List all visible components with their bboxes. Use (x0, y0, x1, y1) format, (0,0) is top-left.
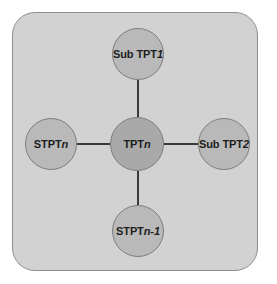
edge-center-to-right (163, 143, 199, 145)
diagram-panel: Sub TPT1 STPTn TPTn Sub TPT2 STPTn-1 (12, 12, 258, 271)
node-tpt-n-label: TPTn (123, 139, 150, 150)
node-stpt-n[interactable]: STPTn (25, 118, 77, 170)
node-sub-tpt-1-label: Sub TPT1 (113, 49, 163, 60)
node-sub-tpt-2[interactable]: Sub TPT2 (198, 118, 250, 170)
diagram-canvas: Sub TPT1 STPTn TPTn Sub TPT2 STPTn-1 (0, 0, 277, 284)
node-stpt-n-label: STPTn (34, 139, 68, 150)
node-sub-tpt-1[interactable]: Sub TPT1 (112, 28, 164, 80)
node-stpt-n-1[interactable]: STPTn-1 (112, 205, 164, 257)
node-stpt-n-1-label: STPTn-1 (116, 226, 160, 237)
node-tpt-n[interactable]: TPTn (110, 117, 164, 171)
node-sub-tpt-2-label: Sub TPT2 (199, 139, 249, 150)
